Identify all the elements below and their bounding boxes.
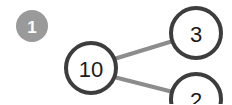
- number-bond-diagram: 1 10 3 2: [0, 0, 232, 104]
- connector-whole-to-part-top: [114, 41, 173, 59]
- node-part-bottom[interactable]: 2: [171, 74, 221, 104]
- node-part-top-label: 3: [190, 22, 202, 47]
- node-whole[interactable]: 10: [66, 43, 116, 93]
- step-badge-label: 1: [27, 18, 36, 37]
- step-badge: 1: [16, 10, 48, 42]
- number-bond-screenshot: 1 10 3 2: [0, 0, 232, 104]
- connector-lines: [114, 41, 173, 92]
- connector-whole-to-part-bottom: [114, 77, 173, 92]
- node-part-top[interactable]: 3: [171, 8, 221, 58]
- node-part-bottom-label: 2: [190, 88, 202, 105]
- node-whole-label: 10: [79, 57, 103, 82]
